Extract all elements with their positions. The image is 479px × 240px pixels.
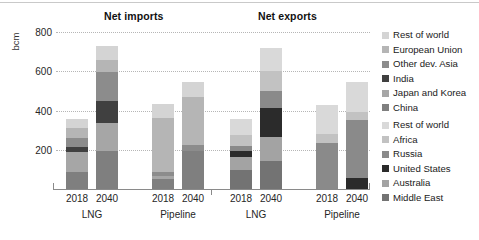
bar-segment-rest-of-world bbox=[260, 48, 282, 72]
bar-exports-2018-lng bbox=[230, 119, 252, 189]
legend-item-australia[interactable]: Australia bbox=[382, 176, 451, 191]
x-tick-label-4: 2018 bbox=[225, 193, 257, 204]
legend-label: United States bbox=[393, 164, 451, 174]
bar-segment-russia bbox=[260, 91, 282, 108]
legend-swatch-icon bbox=[382, 46, 389, 53]
bar-segment-rest-of-world bbox=[96, 46, 118, 60]
bar-segment-rest-of-world bbox=[316, 105, 338, 134]
legend-label: Russia bbox=[393, 149, 422, 159]
legend-label: Australia bbox=[393, 178, 430, 188]
bar-segment-japan-and-korea bbox=[96, 123, 118, 150]
legend-swatch-icon bbox=[382, 194, 389, 201]
bar-exports-2040-pipeline bbox=[346, 82, 368, 189]
plot-area bbox=[56, 28, 370, 190]
legend-item-africa[interactable]: Africa bbox=[382, 133, 451, 148]
legend-item-japan-and-korea[interactable]: Japan and Korea bbox=[382, 86, 466, 101]
x-tick-label-5: 2040 bbox=[255, 193, 287, 204]
bar-segment-other-dev-asia bbox=[96, 72, 118, 100]
legend-label: Rest of world bbox=[393, 120, 449, 130]
bar-segment-other-dev-asia bbox=[66, 138, 88, 147]
bar-exports-2018-pipeline bbox=[316, 105, 338, 189]
bar-segment-european-union bbox=[66, 128, 88, 138]
legend-swatch-icon bbox=[382, 61, 389, 68]
panel-title-net-exports: Net exports bbox=[258, 10, 317, 22]
legend-swatch-icon bbox=[382, 136, 389, 143]
legend-label: Rest of world bbox=[393, 30, 449, 40]
legend-label: Japan and Korea bbox=[393, 88, 466, 98]
legend-importers: Rest of worldEuropean UnionOther dev. As… bbox=[382, 28, 466, 115]
bar-segment-middle-east bbox=[230, 170, 252, 189]
bar-segment-united-states bbox=[346, 178, 368, 189]
bar-segment-european-union bbox=[182, 97, 204, 145]
legend-label: European Union bbox=[393, 45, 462, 55]
bar-segment-russia bbox=[316, 143, 338, 189]
x-tick-label-7: 2040 bbox=[341, 193, 373, 204]
bar-segment-european-union bbox=[152, 118, 174, 172]
legend-label: Other dev. Asia bbox=[393, 59, 458, 69]
legend-swatch-icon bbox=[382, 104, 389, 111]
bar-segment-africa bbox=[316, 134, 338, 143]
bar-segment-united-states bbox=[260, 108, 282, 137]
bar-segment-rest-of-world bbox=[346, 82, 368, 112]
panel-title-net-imports: Net imports bbox=[104, 10, 163, 22]
x-tick-label-3: 2040 bbox=[177, 193, 209, 204]
legend-item-india[interactable]: India bbox=[382, 72, 466, 87]
legend-item-russia[interactable]: Russia bbox=[382, 147, 451, 162]
y-tick-label-200: 200 bbox=[6, 144, 52, 155]
bar-segment-india bbox=[96, 101, 118, 124]
x-axis-left-tick bbox=[53, 183, 54, 190]
y-tick-label-600: 600 bbox=[6, 66, 52, 77]
legend-item-rest-of-world[interactable]: Rest of world bbox=[382, 118, 451, 133]
bar-segment-australia bbox=[230, 157, 252, 171]
legend-swatch-icon bbox=[382, 90, 389, 97]
legend-swatch-icon bbox=[382, 75, 389, 82]
x-tick-label-2: 2018 bbox=[147, 193, 179, 204]
legend-swatch-icon bbox=[382, 122, 389, 129]
bar-segment-rest-of-world bbox=[152, 104, 174, 119]
bar-segment-china bbox=[66, 172, 88, 189]
chart-figure: Net imports Net exports bcm 200400600800… bbox=[0, 0, 479, 240]
bar-segment-china bbox=[182, 151, 204, 189]
legend-label: Middle East bbox=[393, 193, 443, 203]
bar-segment-russia bbox=[346, 120, 368, 178]
y-tick-label-800: 800 bbox=[6, 27, 52, 38]
legend-item-rest-of-world[interactable]: Rest of world bbox=[382, 28, 466, 43]
y-axis-tick-labels: 200400600800 bbox=[4, 28, 52, 190]
gridline-800 bbox=[56, 32, 370, 33]
bar-segment-africa bbox=[260, 71, 282, 91]
x-group-label-lng: LNG bbox=[62, 209, 122, 220]
x-group-label-pipeline: Pipeline bbox=[148, 209, 208, 220]
bar-segment-rest-of-world bbox=[66, 119, 88, 128]
bar-imports-2018-pipeline bbox=[152, 104, 174, 189]
bar-segment-european-union bbox=[96, 60, 118, 73]
legend-item-european-union[interactable]: European Union bbox=[382, 43, 466, 58]
bar-segment-africa bbox=[346, 112, 368, 120]
bar-segment-africa bbox=[230, 135, 252, 146]
bar-imports-2040-pipeline bbox=[182, 82, 204, 189]
legend-label: China bbox=[393, 103, 418, 113]
x-axis-right-tick bbox=[369, 183, 370, 190]
bar-segment-australia bbox=[260, 137, 282, 161]
bar-segment-japan-and-korea bbox=[66, 152, 88, 173]
x-tick-label-1: 2040 bbox=[91, 193, 123, 204]
x-axis-panel-divider-tick bbox=[211, 189, 212, 195]
legend-label: India bbox=[393, 74, 414, 84]
x-group-label-pipeline: Pipeline bbox=[312, 209, 372, 220]
bar-imports-2040-lng bbox=[96, 46, 118, 189]
legend-swatch-icon bbox=[382, 151, 389, 158]
x-tick-label-0: 2018 bbox=[61, 193, 93, 204]
legend-exporters: Rest of worldAfricaRussiaUnited StatesAu… bbox=[382, 118, 451, 205]
legend-item-united-states[interactable]: United States bbox=[382, 162, 451, 177]
bar-segment-china bbox=[152, 179, 174, 189]
bar-segment-china bbox=[96, 151, 118, 189]
legend-swatch-icon bbox=[382, 165, 389, 172]
top-rule bbox=[0, 2, 479, 3]
bar-segment-rest-of-world bbox=[182, 82, 204, 97]
legend-item-middle-east[interactable]: Middle East bbox=[382, 191, 451, 206]
bar-exports-2040-lng bbox=[260, 48, 282, 189]
legend-item-other-dev-asia[interactable]: Other dev. Asia bbox=[382, 57, 466, 72]
legend-swatch-icon bbox=[382, 32, 389, 39]
legend-item-china[interactable]: China bbox=[382, 101, 466, 116]
legend-swatch-icon bbox=[382, 180, 389, 187]
legend-label: Africa bbox=[393, 135, 418, 145]
